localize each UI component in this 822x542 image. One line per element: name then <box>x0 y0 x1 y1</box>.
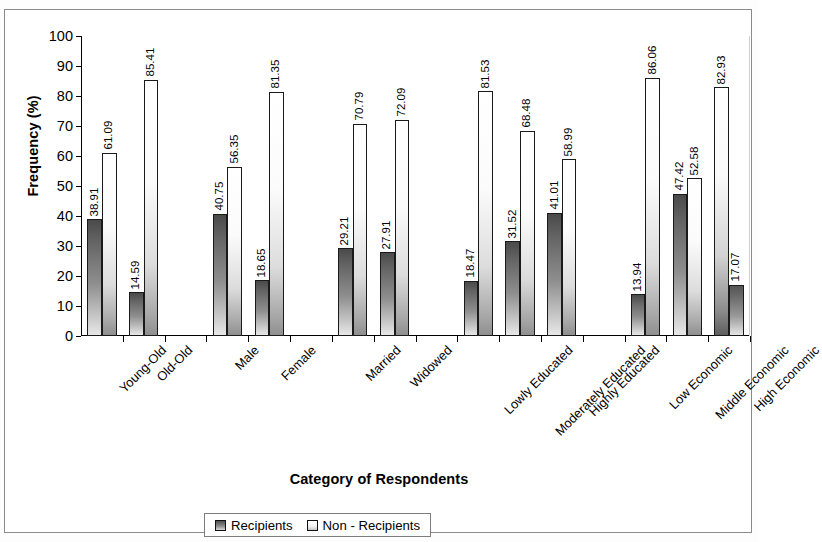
x-axis-tick-mark <box>248 336 249 342</box>
bar-value-label: 31.52 <box>506 210 518 239</box>
bar-value-label: 82.93 <box>715 55 727 84</box>
x-axis-tick-mark <box>457 336 458 342</box>
x-axis-tick-mark <box>206 336 207 342</box>
x-axis-category-label: Married <box>363 344 403 384</box>
figure-frame: Frequency (%) 0102030405060708090100 38.… <box>4 9 752 533</box>
bar: 27.91 <box>380 252 395 336</box>
x-axis-category-label: Lowly Educated <box>503 344 576 417</box>
legend-label: Recipients <box>231 518 293 533</box>
y-axis-tick-label: 30 <box>41 239 73 254</box>
y-axis-tick-label: 60 <box>41 149 73 164</box>
x-axis-tick-mark <box>290 336 291 342</box>
x-axis-tick-mark <box>374 336 375 342</box>
bar: 52.58 <box>687 178 702 336</box>
y-axis-tick-mark <box>76 126 82 127</box>
bar-value-label: 18.65 <box>255 248 267 277</box>
y-axis-tick-mark <box>76 186 82 187</box>
y-axis-tick-label: 50 <box>41 179 73 194</box>
y-axis-tick-label: 20 <box>41 269 73 284</box>
y-axis-tick-label: 0 <box>41 329 73 344</box>
bar-value-label: 56.35 <box>228 135 240 164</box>
bar: 13.94 <box>631 294 646 336</box>
legend-item[interactable]: Non - Recipients <box>307 518 420 533</box>
y-axis-tick-label: 40 <box>41 209 73 224</box>
y-axis-title: Frequency (%) <box>25 56 41 236</box>
bar: 81.35 <box>269 92 284 336</box>
bar: 31.52 <box>505 241 520 336</box>
bar-value-label: 17.07 <box>730 253 742 282</box>
bar: 85.41 <box>144 80 159 336</box>
y-axis-tick-mark <box>76 66 82 67</box>
bar: 82.93 <box>714 87 729 336</box>
x-axis-tick-mark <box>165 336 166 342</box>
bar: 17.07 <box>729 285 744 336</box>
x-axis-category-label: Female <box>280 344 319 383</box>
bar-value-label: 52.58 <box>688 146 700 175</box>
bar-value-label: 61.09 <box>103 121 115 150</box>
x-axis-tick-mark <box>416 336 417 342</box>
legend: RecipientsNon - Recipients <box>204 513 431 537</box>
x-axis-tick-mark <box>708 336 709 342</box>
y-axis-tick-mark <box>76 156 82 157</box>
bar: 81.53 <box>478 91 493 336</box>
y-axis-tick-mark <box>76 216 82 217</box>
bar: 18.47 <box>464 281 479 336</box>
bar: 72.09 <box>395 120 410 336</box>
x-axis-tick-mark <box>541 336 542 342</box>
y-axis-tick-label: 100 <box>41 29 73 44</box>
y-axis-tick-label: 80 <box>41 89 73 104</box>
legend-swatch-icon <box>215 520 226 531</box>
bar-value-label: 81.35 <box>270 60 282 89</box>
x-axis-tick-mark <box>625 336 626 342</box>
y-axis-tick-label: 90 <box>41 59 73 74</box>
x-axis-tick-mark <box>123 336 124 342</box>
bar-value-label: 38.91 <box>88 187 100 216</box>
bar: 70.79 <box>353 124 368 336</box>
bar: 18.65 <box>255 280 270 336</box>
bar: 29.21 <box>338 248 353 336</box>
bar: 86.06 <box>645 78 660 336</box>
legend-label: Non - Recipients <box>323 518 420 533</box>
y-axis-tick-mark <box>76 306 82 307</box>
bar-value-label: 41.01 <box>548 181 560 210</box>
bar-value-label: 18.47 <box>464 249 476 278</box>
legend-item[interactable]: Recipients <box>215 518 293 533</box>
x-axis-tick-mark <box>583 336 584 342</box>
legend-swatch-icon <box>307 520 318 531</box>
x-axis-title: Category of Respondents <box>5 471 753 487</box>
y-axis-tick-mark <box>76 36 82 37</box>
bar: 47.42 <box>673 194 688 336</box>
x-axis-category-label: Widowed <box>408 344 454 390</box>
bar: 68.48 <box>520 131 535 336</box>
bar-value-label: 81.53 <box>479 60 491 89</box>
bar: 14.59 <box>129 292 144 336</box>
bar-value-label: 68.48 <box>521 99 533 128</box>
x-axis-category-label: Male <box>233 344 262 373</box>
bar-value-label: 86.06 <box>646 46 658 75</box>
bar: 41.01 <box>547 213 562 336</box>
bar-value-label: 85.41 <box>145 48 157 77</box>
x-axis-tick-mark <box>666 336 667 342</box>
bar: 58.99 <box>562 159 577 336</box>
bar-value-label: 29.21 <box>339 217 351 246</box>
y-axis-tick-label: 10 <box>41 299 73 314</box>
y-axis-tick-mark <box>76 336 82 337</box>
bar-value-label: 58.99 <box>563 127 575 156</box>
bar: 61.09 <box>102 153 117 336</box>
y-axis-tick-label: 70 <box>41 119 73 134</box>
y-axis-tick-mark <box>76 276 82 277</box>
x-axis-tick-mark <box>750 336 751 342</box>
bar: 38.91 <box>87 219 102 336</box>
bar-value-label: 27.91 <box>381 220 393 249</box>
y-axis-tick-mark <box>76 96 82 97</box>
x-axis-tick-mark <box>499 336 500 342</box>
bar-value-label: 13.94 <box>632 262 644 291</box>
bar-value-label: 14.59 <box>130 260 142 289</box>
bar-value-label: 47.42 <box>673 162 685 191</box>
bar-value-label: 70.79 <box>354 92 366 121</box>
y-axis-tick-mark <box>76 246 82 247</box>
bar: 40.75 <box>213 214 228 336</box>
bar: 56.35 <box>227 167 242 336</box>
bar-value-label: 40.75 <box>214 182 226 211</box>
